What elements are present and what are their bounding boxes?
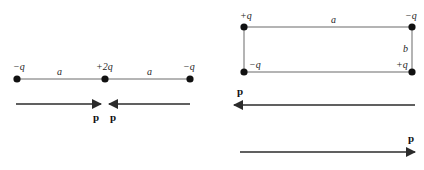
charge-dot-left xyxy=(13,75,20,82)
right-charge-label-bottom-right: +q xyxy=(396,60,408,70)
left-diagram-group xyxy=(13,75,193,104)
charge-dot-right xyxy=(186,75,193,82)
left-charge-label-right: −q xyxy=(183,62,195,72)
left-separation-label-second: a xyxy=(147,67,152,77)
right-upper-dipole-vector-label: p xyxy=(237,86,243,97)
right-diagram-group xyxy=(234,23,416,152)
right-side-label-right: b xyxy=(403,44,408,54)
right-charge-label-bottom-left: −q xyxy=(249,60,261,70)
physics-charge-diagram-figure: −q +2q −q a a p p +q −q −q +q a b p p xyxy=(0,0,424,170)
diagram-canvas xyxy=(0,0,424,170)
right-charge-label-top-right: −q xyxy=(405,11,417,21)
left-dipole-vector-label-first: p xyxy=(93,112,99,123)
right-charge-label-top-left: +q xyxy=(240,11,252,21)
right-lower-dipole-vector-label: p xyxy=(408,133,414,144)
charge-dot-top-right xyxy=(408,23,415,30)
charge-dot-bottom-right xyxy=(408,68,415,75)
charge-dot-top-left xyxy=(240,23,247,30)
left-separation-label-first: a xyxy=(57,67,62,77)
left-charge-label-center: +2q xyxy=(96,62,113,72)
left-dipole-vector-label-second: p xyxy=(110,112,116,123)
left-charge-label-left: −q xyxy=(13,62,25,72)
right-side-label-top: a xyxy=(331,15,336,25)
charge-rectangle xyxy=(244,27,412,72)
charge-dot-center xyxy=(101,75,108,82)
charge-dot-bottom-left xyxy=(240,68,247,75)
